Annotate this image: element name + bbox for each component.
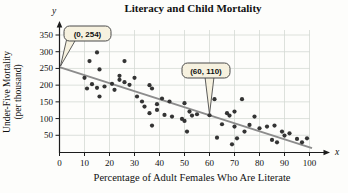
data-point [117, 78, 121, 82]
data-point [265, 124, 269, 128]
data-point [182, 101, 186, 105]
data-point [112, 88, 116, 92]
x-tick-label: 60 [205, 158, 215, 168]
y-tick-label: 150 [40, 97, 54, 107]
data-point [97, 67, 101, 71]
x-tick-label: 70 [230, 158, 240, 168]
chart-title: Literacy and Child Mortality [124, 2, 262, 14]
data-point [82, 76, 86, 80]
data-point [195, 112, 199, 116]
data-point [95, 86, 99, 90]
data-point [122, 80, 126, 84]
y-tick-label: 300 [40, 47, 54, 57]
data-point [287, 131, 291, 135]
data-point [147, 111, 151, 115]
x-tick-label: 80 [255, 158, 265, 168]
data-point [160, 96, 164, 100]
data-point [190, 113, 194, 117]
data-point [295, 137, 299, 141]
y-tick-label: 350 [40, 30, 54, 40]
data-point [232, 109, 236, 113]
grid-layer [60, 30, 311, 152]
data-point [162, 113, 166, 117]
data-point [272, 123, 276, 127]
data-point [242, 130, 246, 134]
y-axis-label-line2: (per thousand) [13, 64, 24, 119]
x-tick-label: 20 [105, 158, 115, 168]
y-tick-label: 200 [40, 80, 54, 90]
data-point [300, 140, 304, 144]
x-tick-label: 50 [180, 158, 190, 168]
y-axis-letter: y [51, 6, 57, 16]
data-point [252, 114, 256, 118]
data-point [185, 130, 189, 134]
x-tick-label: 100 [303, 158, 317, 168]
data-point [102, 84, 106, 88]
data-point [150, 123, 154, 127]
callout-tail [205, 77, 214, 114]
data-point [87, 59, 91, 63]
data-point [140, 99, 144, 103]
chart-figure: 0102030405060708090100501001502002503003… [0, 0, 348, 193]
data-point [85, 86, 89, 90]
data-point [142, 104, 146, 108]
data-point [275, 140, 279, 144]
data-point [282, 134, 286, 138]
data-point [182, 119, 186, 123]
callout-layer: (0, 254)(60, 110) [61, 26, 231, 114]
y-tick-label: 50 [44, 130, 54, 140]
callout-label: (0, 254) [74, 30, 102, 39]
chart-svg: 0102030405060708090100501001502002503003… [0, 0, 348, 193]
data-point [305, 136, 309, 140]
tick-label-layer: 0102030405060708090100501001502002503003… [40, 30, 317, 167]
data-point [187, 109, 191, 113]
data-point [280, 130, 284, 134]
data-point [122, 59, 126, 63]
data-point [240, 97, 244, 101]
data-point [132, 76, 136, 80]
x-axis-arrowhead [324, 150, 331, 156]
x-tick-label: 30 [130, 158, 140, 168]
y-axis-arrowhead [57, 21, 63, 28]
data-point [257, 126, 261, 130]
data-point [127, 83, 131, 87]
regression-line [60, 67, 313, 148]
callout-label: (60, 110) [190, 67, 222, 76]
data-point [135, 94, 139, 98]
data-point [97, 94, 101, 98]
data-point [167, 99, 171, 103]
y-axis-label-line1: Under-Five Mortality [2, 51, 12, 133]
data-point [95, 50, 99, 54]
trend-line-layer [60, 67, 313, 148]
data-point [230, 142, 234, 146]
data-point [90, 82, 94, 86]
x-tick-label: 90 [280, 158, 290, 168]
callout-tail [61, 40, 76, 66]
x-axis-letter: x [334, 147, 340, 157]
data-point [215, 136, 219, 140]
y-tick-label: 100 [40, 114, 54, 124]
data-point [247, 123, 251, 127]
data-point [155, 102, 159, 106]
data-point [117, 74, 121, 78]
data-point [212, 97, 216, 101]
data-point [155, 108, 159, 112]
data-point [270, 138, 274, 142]
data-point [147, 83, 151, 87]
data-point [227, 113, 231, 117]
x-tick-label: 10 [80, 158, 90, 168]
data-point [150, 86, 154, 90]
x-tick-label: 40 [155, 158, 165, 168]
data-point [170, 114, 174, 118]
data-point [235, 136, 239, 140]
x-tick-label: 0 [57, 158, 62, 168]
data-point [110, 82, 114, 86]
data-point [220, 122, 224, 126]
data-point [232, 124, 236, 128]
y-tick-label: 250 [40, 63, 54, 73]
x-axis-label: Percentage of Adult Females Who Are Lite… [94, 172, 291, 183]
